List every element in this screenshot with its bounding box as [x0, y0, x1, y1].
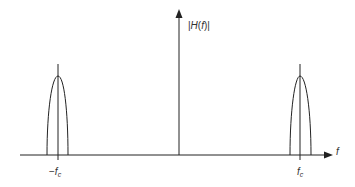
abs-close: | [207, 20, 210, 31]
right-lobe [290, 64, 311, 160]
negative-fc-label: −fc [49, 167, 61, 178]
frequency-axis-arrow-icon [324, 152, 333, 159]
function-name: H [191, 20, 198, 31]
fc-subscript: c [58, 171, 62, 178]
function-arg: f [201, 20, 204, 31]
frequency-axis-label: f [336, 147, 339, 157]
left-lobe [47, 64, 68, 160]
magnitude-axis-label: |H(f)| [188, 21, 210, 31]
positive-fc-label: fc [297, 167, 303, 178]
fc-subscript: c [300, 171, 304, 178]
magnitude-axis-arrow-icon [176, 9, 183, 18]
bandpass-diagram [0, 0, 355, 187]
